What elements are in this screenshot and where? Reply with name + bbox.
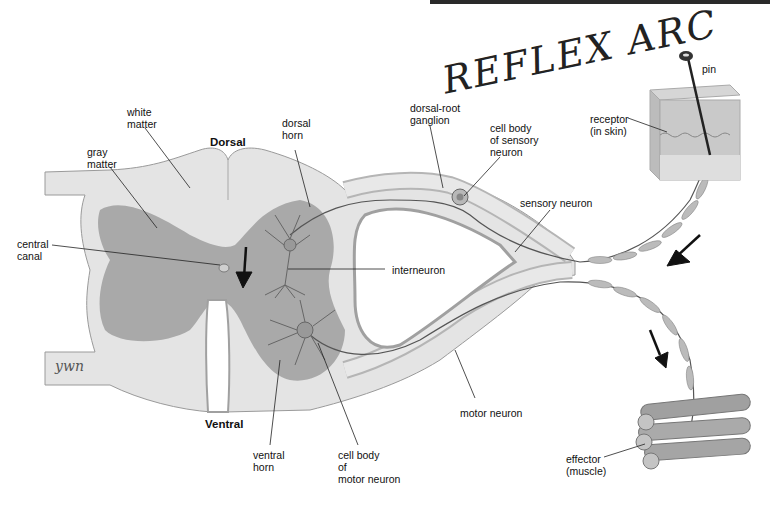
sensory-cell-body (452, 189, 468, 205)
central-canal-label: central canal (17, 238, 49, 262)
motor-neuron-label: motor neuron (460, 407, 522, 419)
spinal-cord-cross-section (45, 148, 575, 412)
white-matter-label: white matter (127, 106, 157, 130)
pin-label: pin (702, 63, 716, 75)
signature: ywn (55, 358, 84, 374)
ventral-horn-label: ventral horn (253, 449, 285, 473)
sensory-neuron-label: sensory neuron (520, 197, 592, 209)
dorsal-root-ganglion-label: dorsal-root ganglion (410, 102, 460, 126)
muscle-fibers (636, 394, 751, 469)
myelin-sheath-segments (588, 176, 711, 391)
dorsal-horn-label: dorsal horn (282, 117, 311, 141)
gray-matter-label: gray matter (87, 146, 117, 170)
ventral-label: Ventral (205, 418, 243, 430)
reflex-arc-diagram (0, 0, 770, 510)
dorsal-label: Dorsal (210, 136, 246, 148)
skin-block (650, 85, 740, 180)
sensory-cell-body-label: cell body of sensory neuron (490, 122, 538, 158)
effector-label: effector (muscle) (566, 453, 606, 477)
central-canal (219, 264, 229, 272)
interneuron-label: interneuron (392, 264, 445, 276)
motor-cell-body-label: cell body of motor neuron (338, 449, 400, 485)
receptor-label: receptor (in skin) (590, 113, 629, 137)
